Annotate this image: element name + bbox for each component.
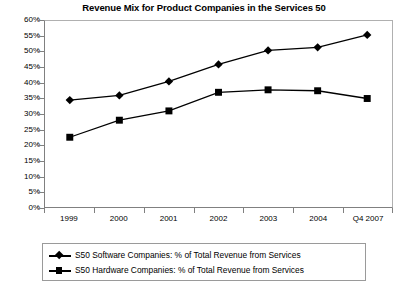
plot-area <box>45 21 392 207</box>
x-tick-label: 2004 <box>293 214 343 224</box>
data-point-marker <box>214 60 222 68</box>
y-tick-label: 45% <box>2 63 40 71</box>
y-tick-label: 25% <box>2 126 40 134</box>
data-point-marker <box>264 46 272 54</box>
data-point-marker <box>66 96 74 104</box>
x-tick-mark <box>144 208 145 213</box>
legend-item-software: S50 Software Companies: % of Total Reven… <box>49 248 359 263</box>
x-tick-mark <box>243 208 244 213</box>
x-axis-tick-marks <box>44 208 393 213</box>
y-tick-label: 20% <box>2 141 40 149</box>
x-tick-mark <box>293 208 294 213</box>
x-axis-labels: 199920002001200220032004Q4 2007 <box>44 214 393 228</box>
data-point-marker <box>265 86 272 93</box>
square-marker-icon <box>49 265 71 276</box>
x-tick-mark <box>392 208 393 213</box>
y-tick-label: 5% <box>2 188 40 196</box>
x-tick-label: Q4 2007 <box>343 214 393 224</box>
data-point-marker <box>165 77 173 85</box>
y-tick-label: 10% <box>2 173 40 181</box>
chart-title: Revenue Mix for Product Companies in the… <box>0 2 408 13</box>
data-point-marker <box>363 31 371 39</box>
data-point-marker <box>215 89 222 96</box>
x-tick-label: 2001 <box>144 214 194 224</box>
legend-item-hardware: S50 Hardware Companies: % of Total Reven… <box>49 263 359 278</box>
y-tick-label: 50% <box>2 47 40 55</box>
diamond-marker-icon <box>49 250 71 261</box>
legend-label-hardware: S50 Hardware Companies: % of Total Reven… <box>75 265 304 276</box>
y-tick-label: 60% <box>2 16 40 24</box>
chart-container: Revenue Mix for Product Companies in the… <box>0 0 408 293</box>
data-point-marker <box>115 91 123 99</box>
x-tick-mark <box>343 208 344 213</box>
y-tick-label: 30% <box>2 110 40 118</box>
y-tick-label: 35% <box>2 94 40 102</box>
data-point-marker <box>66 134 73 141</box>
y-tick-label: 0% <box>2 204 40 212</box>
data-point-marker <box>313 43 321 51</box>
data-point-marker <box>364 95 371 102</box>
x-tick-mark <box>94 208 95 213</box>
data-point-marker <box>314 87 321 94</box>
x-tick-label: 1999 <box>44 214 94 224</box>
y-tick-label: 15% <box>2 157 40 165</box>
x-tick-label: 2002 <box>194 214 244 224</box>
y-tick-label: 55% <box>2 32 40 40</box>
y-tick-label: 40% <box>2 79 40 87</box>
x-tick-mark <box>44 208 45 213</box>
y-axis-labels: 0%5%10%15%20%25%30%35%40%45%50%55%60% <box>0 20 40 208</box>
x-tick-label: 2000 <box>94 214 144 224</box>
x-tick-mark <box>194 208 195 213</box>
plot-frame <box>44 20 393 208</box>
chart-legend: S50 Software Companies: % of Total Reven… <box>42 243 366 281</box>
data-point-marker <box>116 117 123 124</box>
data-point-marker <box>165 107 172 114</box>
x-tick-label: 2003 <box>243 214 293 224</box>
series-line-hardware <box>70 90 367 137</box>
legend-label-software: S50 Software Companies: % of Total Reven… <box>75 250 301 261</box>
